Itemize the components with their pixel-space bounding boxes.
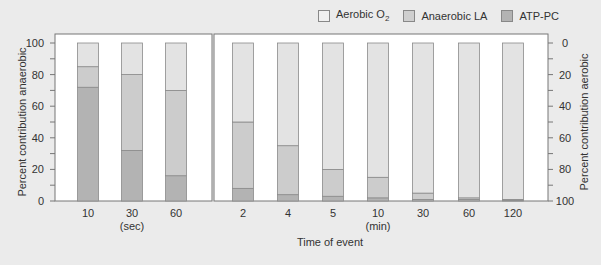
bar-segment <box>78 67 99 88</box>
left-tick-label: 0 <box>38 195 44 207</box>
bar-segment <box>78 87 99 201</box>
bar-segment <box>233 43 254 122</box>
x-tick-label: 10 <box>372 207 384 219</box>
x-axis-label: Time of event <box>297 236 363 248</box>
unit-label-sec: (sec) <box>120 220 144 232</box>
bar-segment <box>233 122 254 188</box>
left-tick-label: 80 <box>32 69 44 81</box>
left-tick-label: 60 <box>32 100 44 112</box>
right-tick-label: 40 <box>559 100 571 112</box>
bar-chart: 020406080100100806040200Percent contribu… <box>0 0 601 267</box>
bar-segment <box>323 43 344 169</box>
unit-label-min: (min) <box>365 220 390 232</box>
x-tick-label: 30 <box>417 207 429 219</box>
bar-segment <box>503 43 524 199</box>
bar-segment <box>122 43 143 75</box>
bar-segment <box>368 177 389 198</box>
left-tick-label: 100 <box>26 37 44 49</box>
bar-segment <box>166 43 187 90</box>
x-tick-label: 5 <box>330 207 336 219</box>
right-tick-label: 100 <box>556 195 574 207</box>
bar-segment <box>323 169 344 196</box>
x-tick-label: 60 <box>170 207 182 219</box>
x-tick-label: 10 <box>82 207 94 219</box>
bar-segment <box>323 196 344 201</box>
left-tick-label: 20 <box>32 163 44 175</box>
bar-segment <box>278 195 299 201</box>
y-axis-label-right: Percent contribution aerobic <box>578 53 590 190</box>
right-tick-label: 80 <box>559 163 571 175</box>
bar-segment <box>278 146 299 195</box>
bar-segment <box>459 43 480 198</box>
bar-segment <box>122 150 143 201</box>
bar-segment <box>413 193 434 199</box>
right-tick-label: 60 <box>559 132 571 144</box>
bar-segment <box>122 75 143 151</box>
x-tick-label: 60 <box>463 207 475 219</box>
x-tick-label: 4 <box>285 207 291 219</box>
y-axis-label-left: Percent contribution anaerobic <box>16 47 28 197</box>
bar-segment <box>166 90 187 175</box>
bar-segment <box>368 43 389 177</box>
left-tick-label: 40 <box>32 132 44 144</box>
bar-segment <box>413 43 434 193</box>
x-tick-label: 30 <box>126 207 138 219</box>
bar-segment <box>78 43 99 67</box>
right-tick-label: 0 <box>562 37 568 49</box>
bar-segment <box>368 198 389 201</box>
bar-segment <box>233 188 254 201</box>
x-tick-label: 120 <box>504 207 522 219</box>
bar-segment <box>166 176 187 201</box>
right-tick-label: 20 <box>559 69 571 81</box>
x-tick-label: 2 <box>240 207 246 219</box>
bar-segment <box>278 43 299 146</box>
